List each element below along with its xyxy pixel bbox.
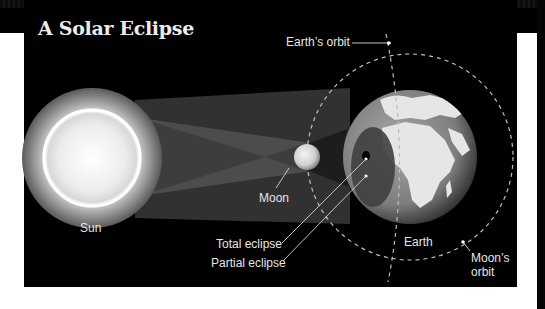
sun [22, 88, 162, 228]
label-earths-orbit: Earth’s orbit [286, 36, 350, 49]
label-sun: Sun [80, 222, 101, 235]
label-moons-orbit-line1: Moon’s [471, 252, 509, 265]
label-earth: Earth [404, 236, 433, 249]
europe-landmass [380, 95, 465, 120]
label-moons-orbit-line2: orbit [471, 266, 494, 279]
diagram-title: A Solar Eclipse [38, 17, 194, 39]
label-total-eclipse: Total eclipse [216, 238, 282, 251]
earth [343, 90, 477, 224]
label-moon: Moon [259, 192, 289, 205]
moon [294, 144, 320, 170]
label-partial-eclipse: Partial eclipse [211, 257, 286, 270]
